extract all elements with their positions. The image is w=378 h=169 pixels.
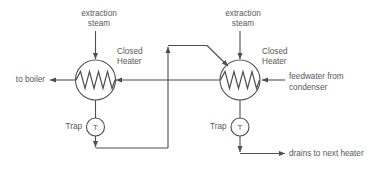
closed-heater-right-label-line1: Closed (262, 47, 288, 56)
closed-heater-left-label-line2: Heater (117, 57, 142, 66)
extraction-steam-left-label-line1: extraction (81, 9, 117, 18)
steam-trap-right-symbol: T (238, 123, 243, 132)
closed-heater-left-coil (76, 72, 115, 89)
feedwater-from-condenser-label-line2: condenser (289, 83, 328, 92)
trap-right-label: Trap (210, 122, 227, 131)
cascaded-drain-diagonal-to-right-heater (207, 46, 228, 67)
steam-trap-left-symbol: T (93, 123, 98, 132)
feedwater-from-condenser-label-line1: feedwater from (289, 72, 344, 81)
closed-heater-left-label-line1: Closed (117, 47, 143, 56)
extraction-steam-left-label-line2: steam (88, 19, 110, 28)
process-flow-diagram: extraction steam Closed Heater to boiler… (0, 0, 378, 169)
extraction-steam-right-label-line1: extraction (225, 9, 261, 18)
extraction-steam-right-label-line2: steam (232, 19, 254, 28)
to-boiler-label: to boiler (16, 75, 45, 84)
drains-to-next-heater-label: drains to next heater (289, 149, 364, 158)
closed-heater-right-coil (221, 72, 260, 89)
closed-heater-right-label-line2: Heater (262, 57, 287, 66)
trap-left-label: Trap (65, 122, 82, 131)
diagram-canvas: extraction steam Closed Heater to boiler… (0, 0, 378, 169)
